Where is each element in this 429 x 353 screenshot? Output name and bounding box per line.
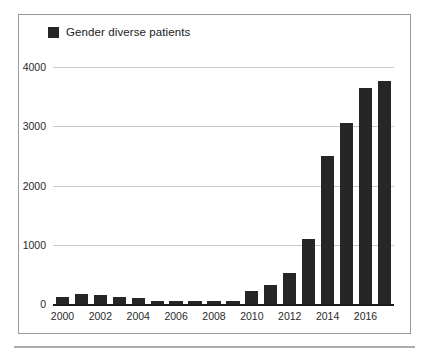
bar-slot: [148, 67, 167, 304]
x-tick-slot: 2000: [53, 308, 72, 326]
bar-slot: [337, 67, 356, 304]
x-axis-tick-label: 2004: [127, 310, 150, 322]
bar-2005: [151, 301, 164, 304]
bar-slot: [318, 67, 337, 304]
x-tick-slot: 2002: [91, 308, 110, 326]
x-axis-line: 0: [53, 304, 394, 306]
x-axis-tick-label: 2008: [202, 310, 225, 322]
bar-slot: [242, 67, 261, 304]
x-tick-slot: 2010: [242, 308, 261, 326]
bar-slot: [53, 67, 72, 304]
x-tick-slot: 2014: [318, 308, 337, 326]
y-axis-tick-label: 3000: [23, 120, 46, 132]
bar-2006: [169, 301, 182, 304]
bar-2016: [359, 88, 372, 304]
figure-frame: Gender diverse patients 0100020003000400…: [18, 14, 411, 334]
bar-2013: [302, 239, 315, 304]
bar-slot: [205, 67, 224, 304]
y-axis-tick-label: 1000: [23, 239, 46, 251]
y-axis-tick-label: 0: [40, 298, 46, 310]
bar-slot: [129, 67, 148, 304]
bar-slot: [223, 67, 242, 304]
x-axis-tick-labels: 200020022004200620082010201220142016: [53, 308, 394, 326]
bar-2015: [340, 123, 353, 304]
bar-slot: [91, 67, 110, 304]
bar-2002: [94, 295, 107, 304]
x-axis-tick-label: 2000: [51, 310, 74, 322]
bar-2003: [113, 297, 126, 304]
bar-2007: [188, 301, 201, 304]
bar-slot: [261, 67, 280, 304]
bar-2011: [264, 285, 277, 304]
x-tick-slot: 2006: [167, 308, 186, 326]
bar-2010: [245, 291, 258, 304]
bar-slot: [356, 67, 375, 304]
x-axis-tick-label: 2006: [164, 310, 187, 322]
x-tick-slot: 2012: [280, 308, 299, 326]
bar-2014: [321, 156, 334, 304]
bar-slot: [375, 67, 394, 304]
x-axis-tick-label: 2010: [240, 310, 263, 322]
bar-slot: [186, 67, 205, 304]
x-axis-tick-label: 2016: [354, 310, 377, 322]
bar-2009: [226, 301, 239, 304]
bar-2004: [132, 298, 145, 304]
bar-slot: [280, 67, 299, 304]
bar-slot: [299, 67, 318, 304]
legend-label: Gender diverse patients: [66, 26, 190, 38]
bar-slot: [167, 67, 186, 304]
plot-area: 01000200030004000: [53, 67, 394, 304]
footer-divider: [14, 346, 415, 348]
chart-legend: Gender diverse patients: [48, 26, 190, 38]
x-tick-slot: 2016: [356, 308, 375, 326]
x-axis-tick-label: 2012: [278, 310, 301, 322]
x-tick-slot: 2004: [129, 308, 148, 326]
bar-2001: [75, 294, 88, 304]
y-axis-tick-label: 4000: [23, 61, 46, 73]
x-axis-tick-label: 2002: [89, 310, 112, 322]
bar-slot: [72, 67, 91, 304]
bar-series: [53, 67, 394, 304]
x-tick-slot: 2008: [205, 308, 224, 326]
legend-swatch-icon: [48, 27, 59, 38]
bar-slot: [110, 67, 129, 304]
x-axis-tick-label: 2014: [316, 310, 339, 322]
x-tick-slot: [375, 308, 394, 326]
bar-2017: [378, 81, 391, 304]
bar-2008: [207, 301, 220, 304]
bar-2000: [56, 297, 69, 304]
bar-2012: [283, 273, 296, 304]
y-axis-tick-label: 2000: [23, 180, 46, 192]
